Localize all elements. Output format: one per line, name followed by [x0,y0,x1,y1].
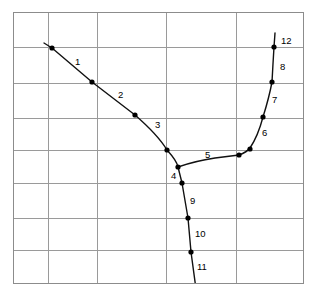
figure-container: 123456789101112 [0,0,319,297]
point-label-2: 2 [118,89,123,100]
point-label-3: 3 [155,119,160,130]
point-label-4: 4 [171,170,176,181]
data-points-group [49,44,276,254]
data-point-right-branch-4 [271,44,276,49]
point-label-8: 8 [280,61,285,72]
curve-right-branch [178,33,275,167]
data-point-lower-branch-2 [188,249,193,254]
point-label-5: 5 [205,149,210,160]
point-label-7: 7 [272,94,277,105]
point-label-11: 11 [197,261,207,272]
data-point-upper-left-branch-3 [164,147,169,152]
curve-lower-branch [178,167,196,289]
point-label-6: 6 [262,127,267,138]
data-point-right-branch-2 [260,114,265,119]
data-point-lower-branch-0 [179,180,184,185]
point-label-9: 9 [190,195,195,206]
data-point-lower-branch-1 [185,215,190,220]
curve-upper-left-branch [44,43,178,167]
point-label-10: 10 [195,228,206,239]
point-label-1: 1 [75,56,80,67]
data-point-upper-left-branch-2 [132,112,137,117]
plot-svg: 123456789101112 [0,0,319,297]
data-point-right-branch-3 [269,79,274,84]
point-label-12: 12 [281,35,292,46]
data-point-upper-left-branch-0 [49,45,54,50]
data-point-right-branch-0 [236,152,241,157]
data-point-upper-left-branch-1 [89,79,94,84]
data-point-right-branch-1 [247,146,252,151]
point-labels-group: 123456789101112 [75,35,292,272]
